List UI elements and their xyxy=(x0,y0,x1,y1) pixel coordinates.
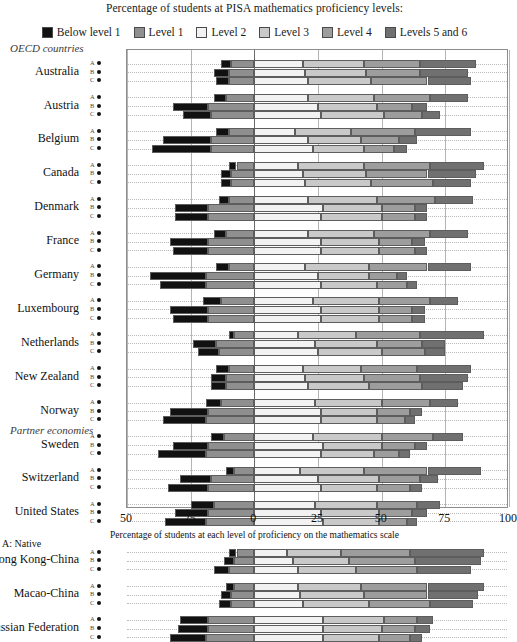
bar-segment-level-2 xyxy=(254,549,287,557)
bar-segment-level-1 xyxy=(208,408,254,416)
bar-segment-level-1 xyxy=(208,204,254,212)
table-row xyxy=(127,204,507,212)
row-code-label: A xyxy=(90,364,95,372)
bar-segment-below-level-1 xyxy=(219,600,232,608)
bar-segment-level-2 xyxy=(254,416,320,424)
bar-segment-level-3 xyxy=(308,94,374,102)
bar-segment-level-3 xyxy=(308,77,372,85)
bar-segment-below-level-1 xyxy=(158,450,206,458)
chart-legend: Below level 1Level 1Level 2Level 3Level … xyxy=(0,26,509,38)
row-code-label: A xyxy=(90,59,95,67)
bar-segment-levels-5-and-6 xyxy=(407,281,417,289)
row-code-label: C xyxy=(90,347,94,355)
x-tick-75-5: 75 xyxy=(438,511,450,526)
row-marker-dot xyxy=(97,307,101,311)
table-row xyxy=(127,433,507,441)
bar-segment-level-2 xyxy=(254,60,302,68)
bar-segment-level-1 xyxy=(221,399,254,407)
row-code-label: A xyxy=(90,127,95,135)
bar-segment-level-4 xyxy=(377,281,408,289)
table-row xyxy=(127,238,507,246)
row-marker-dot xyxy=(97,264,101,268)
bar-segment-level-1 xyxy=(231,591,254,599)
bar-segment-level-2 xyxy=(254,247,320,255)
table-row xyxy=(127,399,507,407)
country-label: Netherlands xyxy=(21,335,79,350)
table-row xyxy=(127,60,507,68)
bar-segment-level-4 xyxy=(377,408,410,416)
legend-item-level-3: Level 3 xyxy=(259,26,309,38)
table-row xyxy=(127,475,507,483)
bar-segment-levels-5-and-6 xyxy=(399,136,417,144)
bar-segment-levels-5-and-6 xyxy=(433,433,464,441)
table-row xyxy=(127,69,507,77)
bar-segment-below-level-1 xyxy=(216,365,229,373)
country-label-column: ABCAustraliaABCAustriaABCBelgiumABCCanad… xyxy=(0,49,103,508)
row-marker-dot xyxy=(97,584,101,588)
x-axis: 50250255075100 xyxy=(126,509,508,529)
row-marker-dot xyxy=(97,567,101,571)
table-row xyxy=(127,557,507,565)
row-code-label: A xyxy=(90,432,95,440)
bar-segment-level-2 xyxy=(254,475,318,483)
row-code-label: A xyxy=(90,466,95,474)
bar-segment-level-4 xyxy=(366,170,427,178)
bar-segment-level-4 xyxy=(366,69,419,77)
bar-segment-level-2 xyxy=(254,600,302,608)
row-marker-dot xyxy=(97,282,101,286)
bar-segment-level-3 xyxy=(303,170,367,178)
row-marker-dot xyxy=(97,273,101,277)
table-row xyxy=(127,281,507,289)
bar-segment-level-1 xyxy=(214,501,255,509)
bar-segment-level-1 xyxy=(216,340,254,348)
table-row xyxy=(127,365,507,373)
bar-segment-level-1 xyxy=(231,600,254,608)
bar-segment-level-1 xyxy=(208,442,254,450)
country-label: Germany xyxy=(34,267,79,282)
bar-segment-level-2 xyxy=(254,306,320,314)
bar-segment-levels-5-and-6 xyxy=(412,306,425,314)
bar-segment-levels-5-and-6 xyxy=(410,408,423,416)
bar-segment-level-2 xyxy=(254,591,300,599)
bar-segment-level-1 xyxy=(208,484,254,492)
bar-segment-level-2 xyxy=(254,557,292,565)
table-row xyxy=(127,247,507,255)
row-code-label: A xyxy=(90,500,95,508)
row-code-label: B xyxy=(90,373,94,381)
row-marker-dot xyxy=(97,366,101,370)
row-marker-dot xyxy=(97,617,101,621)
bar-segment-below-level-1 xyxy=(219,196,229,204)
bar-segment-level-2 xyxy=(254,170,302,178)
bar-segment-level-3 xyxy=(303,60,364,68)
row-marker-dot xyxy=(97,137,101,141)
bar-segment-level-1 xyxy=(237,162,255,170)
row-code-label: C xyxy=(90,415,94,423)
x-tick-0-2: 0 xyxy=(250,511,256,526)
x-tick-25-3: 25 xyxy=(311,511,323,526)
bar-segment-level-4 xyxy=(341,549,410,557)
gridline-100 xyxy=(509,50,510,507)
legend-swatch-level-2 xyxy=(196,27,207,38)
bar-segment-level-3 xyxy=(321,306,380,314)
bar-segment-level-3 xyxy=(305,374,364,382)
bar-segment-level-2 xyxy=(254,204,323,212)
table-row xyxy=(127,77,507,85)
bar-segment-levels-5-and-6 xyxy=(399,450,409,458)
bar-segment-level-4 xyxy=(377,196,436,204)
row-code-label: C xyxy=(90,483,94,491)
bar-segment-levels-5-and-6 xyxy=(415,247,428,255)
bar-segment-level-4 xyxy=(379,247,415,255)
bar-segment-level-3 xyxy=(300,591,364,599)
legend-swatch-level-4 xyxy=(322,27,333,38)
country-label: Sweden xyxy=(41,437,79,452)
country-label: Switzerland xyxy=(22,470,79,485)
row-marker-dot xyxy=(97,248,101,252)
table-row xyxy=(127,442,507,450)
bar-segment-level-3 xyxy=(323,625,382,633)
bar-segment-level-4 xyxy=(364,162,430,170)
bar-segment-level-4 xyxy=(384,111,422,119)
table-row xyxy=(127,591,507,599)
bar-segment-level-4 xyxy=(364,145,395,153)
bar-segment-level-2 xyxy=(254,442,323,450)
